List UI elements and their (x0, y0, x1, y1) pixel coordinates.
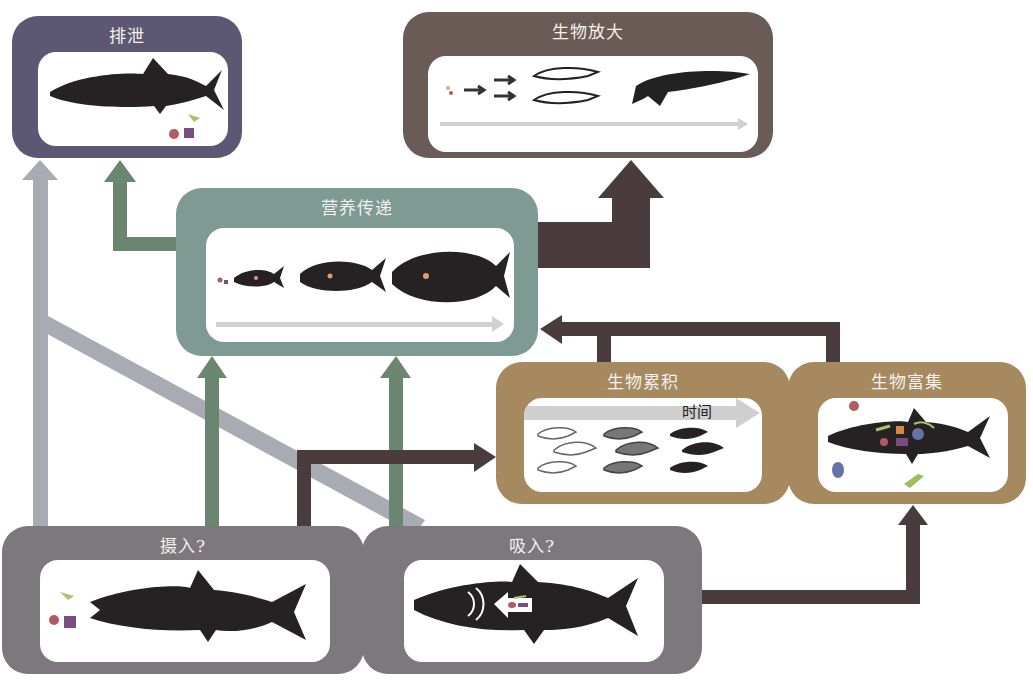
time-axis-label: 时间 (682, 400, 712, 421)
box-title: 生物富集 (788, 368, 1026, 393)
box-bioconcentration: 生物富集 (788, 362, 1026, 504)
box-excretion: 排泄 (12, 16, 242, 158)
arrow-trophic-to-biomagnification (538, 160, 664, 268)
box-trophic-transfer: 营养传递 (176, 188, 538, 356)
box-inhalation: 吸入? (362, 526, 702, 674)
arrow-inhalation-to-bioconcentration (700, 505, 928, 604)
bioaccumulation-panel: 时间 (524, 398, 762, 492)
fish-excretion-icon (38, 52, 228, 146)
arrow-ingestion-to-trophic (197, 356, 227, 532)
fish-with-particles-icon (818, 398, 1008, 492)
bioconcentration-panel (818, 398, 1008, 492)
biomagnification-panel (428, 56, 758, 152)
box-title: 营养传递 (176, 194, 538, 219)
box-biomagnification: 生物放大 (403, 12, 773, 158)
box-title: 排泄 (12, 22, 242, 47)
excretion-panel (38, 52, 228, 146)
diagram-stage: 排泄 生物放大 (0, 0, 1033, 687)
arrow-trophic-to-excretion (104, 160, 183, 251)
box-title: 生物放大 (403, 18, 773, 43)
fish-ingesting-icon (40, 560, 330, 662)
box-bioaccumulation: 生物累积 (496, 362, 790, 504)
trophic-panel (206, 228, 514, 342)
fish-gill-uptake-icon (404, 560, 664, 662)
growing-fish-icon (206, 228, 514, 342)
food-chain-icon (428, 56, 758, 152)
ingestion-panel (40, 560, 330, 662)
box-title: 吸入? (362, 532, 702, 557)
arrow-ingestion-to-excretion (22, 160, 58, 532)
inhalation-panel (404, 560, 664, 662)
box-title: 生物累积 (496, 368, 790, 393)
arrow-accum-concentration-to-trophic (540, 315, 840, 367)
box-ingestion: 摄入? (2, 526, 364, 674)
box-title: 摄入? (2, 532, 364, 557)
school-of-fish-icon (524, 398, 762, 492)
